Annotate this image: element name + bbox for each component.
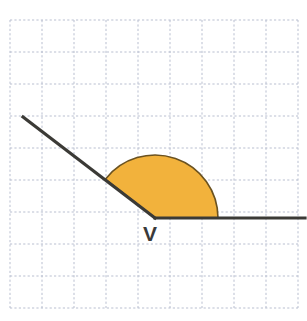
angle-diagram-figure: V — [0, 0, 307, 321]
diagram-canvas: V — [0, 0, 307, 321]
vertex-label: V — [143, 222, 157, 245]
